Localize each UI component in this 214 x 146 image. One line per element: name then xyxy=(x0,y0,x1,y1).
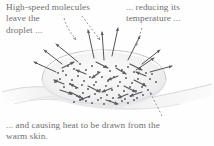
molecule-dot xyxy=(117,85,119,87)
molecule-dot xyxy=(77,75,79,77)
molecule-dot xyxy=(54,81,56,83)
molecule-dot xyxy=(155,81,157,83)
molecule-dot xyxy=(115,65,117,67)
molecule-dot xyxy=(97,99,99,101)
molecule-dot xyxy=(141,86,143,88)
caption-leader-line xyxy=(136,28,142,46)
molecule-dot xyxy=(59,78,61,80)
molecule-dot xyxy=(109,70,111,72)
molecule-dot xyxy=(83,80,85,82)
molecule-dot xyxy=(57,72,59,74)
caption-reducing-temperature: ... reducing its temperature ... xyxy=(126,2,181,25)
molecule-dot xyxy=(112,97,114,99)
molecule-dot xyxy=(91,102,93,104)
molecule-dot xyxy=(125,77,127,79)
molecule-dot xyxy=(147,89,149,91)
caption-heat-drawn-from-skin: ... and causing heat to be drawn from th… xyxy=(6,120,160,143)
molecule-dot xyxy=(127,66,129,68)
molecule-dot xyxy=(145,72,147,74)
molecule-dot xyxy=(129,86,131,88)
molecule-dot xyxy=(81,84,83,86)
molecule-dot xyxy=(93,84,95,86)
molecule-dot xyxy=(101,76,103,78)
molecule-dot xyxy=(133,99,135,101)
molecule-dot xyxy=(103,103,105,105)
molecule-dot xyxy=(95,81,97,83)
molecule-dot xyxy=(73,68,75,70)
escaping-molecule-arrow xyxy=(112,28,118,56)
molecule-dot xyxy=(137,78,139,80)
molecule-dot xyxy=(124,98,126,100)
molecule-dot xyxy=(87,88,89,90)
molecule-dot xyxy=(94,93,96,95)
molecule-dot xyxy=(73,101,75,103)
molecule-dot xyxy=(91,65,93,67)
molecule-dot xyxy=(111,89,113,91)
molecule-dot xyxy=(133,71,135,73)
molecule-dot xyxy=(121,100,123,102)
molecule-dot xyxy=(65,74,67,76)
molecule-dot xyxy=(89,76,91,78)
molecule-dot xyxy=(136,97,138,99)
molecule-dot xyxy=(100,97,102,99)
molecule-dot xyxy=(131,82,133,84)
molecule-dot xyxy=(123,90,125,92)
molecule-dot xyxy=(62,70,64,72)
molecule-dot xyxy=(151,73,153,75)
molecule-dot xyxy=(119,81,121,83)
molecule-dot xyxy=(71,79,73,81)
molecule-dot xyxy=(127,102,129,104)
molecule-dot xyxy=(142,94,144,96)
molecule-dot xyxy=(82,92,84,94)
caption-high-speed-molecules: High-speed molecules leave the droplet .… xyxy=(6,2,90,36)
molecule-dot xyxy=(63,86,65,88)
molecule-dot xyxy=(85,100,87,102)
molecule-dot xyxy=(79,63,81,65)
molecule-dot xyxy=(85,69,87,71)
molecule-dot xyxy=(149,78,151,80)
molecule-dot xyxy=(118,94,120,96)
molecule-dot xyxy=(106,94,108,96)
evaporation-diagram: High-speed molecules leave the droplet .… xyxy=(0,0,214,146)
molecule-dot xyxy=(99,89,101,91)
molecule-dot xyxy=(105,85,107,87)
